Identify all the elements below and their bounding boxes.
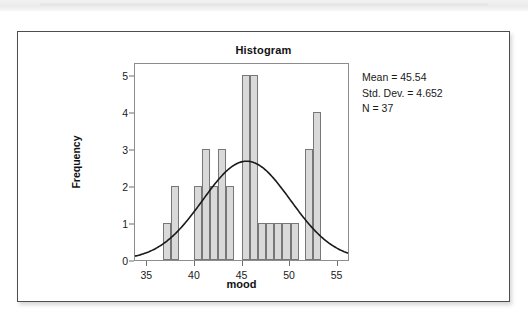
histogram-bar [210, 186, 218, 260]
y-axis-tick-label: 5 [122, 70, 128, 82]
histogram-bar [274, 223, 282, 260]
stat-std-dev: Std. Dev. = 4.652 [362, 86, 443, 102]
bars-layer [135, 64, 348, 260]
chart-title: Histogram [18, 44, 509, 56]
histogram-bar [291, 223, 299, 260]
histogram-bar [266, 223, 274, 260]
y-axis-label-text: Frequency [70, 135, 82, 188]
histogram-bar [242, 75, 250, 260]
histogram-bar [194, 186, 202, 260]
histogram-bar [163, 223, 171, 260]
plot-area [134, 63, 349, 261]
histogram-bar [282, 223, 290, 260]
x-axis-tick-mark [289, 261, 290, 266]
y-axis-tick-label: 1 [122, 218, 128, 230]
x-axis-tick-mark [146, 261, 147, 266]
y-axis-tick-label: 0 [122, 255, 128, 267]
page-surface: Histogram Frequency 012345 3540455055 mo… [0, 11, 528, 321]
page-top-strip [0, 0, 528, 11]
y-axis: 012345 [104, 63, 134, 261]
y-axis-tick-label: 2 [122, 181, 128, 193]
stat-n: N = 37 [362, 101, 443, 117]
histogram-bar [202, 149, 210, 260]
histogram-bar [171, 186, 179, 260]
histogram-bar [250, 75, 258, 260]
y-axis-tick-label: 4 [122, 107, 128, 119]
histogram-bar [305, 149, 313, 260]
y-axis-label: Frequency [68, 63, 84, 261]
histogram-bar [226, 186, 234, 260]
histogram-bar [218, 149, 226, 260]
x-axis-tick-mark [194, 261, 195, 266]
x-axis-label: mood [134, 278, 349, 290]
histogram-bar [313, 112, 321, 260]
x-axis-tick-mark [242, 261, 243, 266]
histogram-bar [258, 223, 266, 260]
x-axis-tick-mark [337, 261, 338, 266]
histogram-figure-card: Histogram Frequency 012345 3540455055 mo… [17, 31, 510, 302]
stat-mean: Mean = 45.54 [362, 70, 443, 86]
statistics-annotation: Mean = 45.54 Std. Dev. = 4.652 N = 37 [362, 70, 443, 117]
y-axis-tick-label: 3 [122, 144, 128, 156]
